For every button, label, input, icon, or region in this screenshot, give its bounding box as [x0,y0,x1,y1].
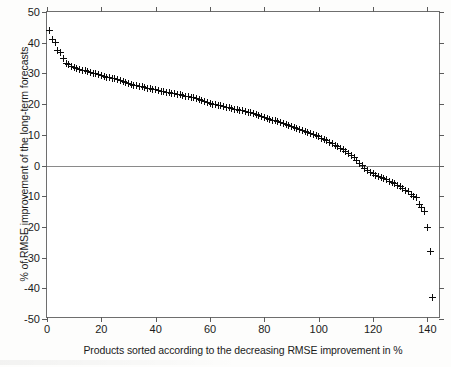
y-tick-label: 0 [34,160,40,172]
x-tick-top [373,7,374,12]
y-tick-right [439,227,444,228]
y-tick [42,135,47,136]
data-point [429,294,436,301]
data-point [421,208,428,215]
x-tick-label: 80 [258,323,270,335]
y-tick-right [439,43,444,44]
y-axis-label: % of RMSE improvement of the long-term f… [18,4,30,324]
y-tick-label: -10 [24,190,40,202]
x-tick-top [101,7,102,12]
x-tick-label: 60 [204,323,216,335]
x-tick-top [427,7,428,12]
y-tick-right [439,196,444,197]
y-tick-label: -50 [24,313,40,325]
plot-area: -50-40-30-20-1001020304050 0204060801001… [46,11,440,318]
x-tick [101,317,102,322]
figure-canvas: % of RMSE improvement of the long-term f… [0,0,451,367]
x-tick-label: 120 [364,323,382,335]
x-tick-top [47,7,48,12]
x-tick-label: 40 [150,323,162,335]
y-tick-right [439,319,444,320]
x-tick [319,317,320,322]
y-tick [42,288,47,289]
y-tick [42,166,47,167]
data-point [413,194,420,201]
x-tick [47,317,48,322]
y-tick-label: -40 [24,282,40,294]
y-tick-right [439,73,444,74]
y-tick-right [439,104,444,105]
y-tick [42,43,47,44]
zero-reference-line [47,166,441,167]
y-tick-label: 50 [28,6,40,18]
y-tick-label: 20 [28,98,40,110]
y-tick-right [439,135,444,136]
x-axis-label: Products sorted according to the decreas… [46,344,440,356]
x-tick [373,317,374,322]
y-tick-label: -30 [24,252,40,264]
x-tick-label: 0 [44,323,50,335]
x-tick [264,317,265,322]
x-tick-label: 140 [418,323,436,335]
x-tick [156,317,157,322]
x-tick-top [156,7,157,12]
y-tick-label: 10 [28,129,40,141]
x-tick-top [210,7,211,12]
y-tick-right [439,258,444,259]
y-tick-right [439,288,444,289]
data-point [46,27,53,34]
y-tick [42,258,47,259]
y-tick-right [439,12,444,13]
y-tick-label: -20 [24,221,40,233]
x-tick [210,317,211,322]
x-tick-label: 100 [310,323,328,335]
y-tick [42,104,47,105]
data-point [52,39,59,46]
data-point [424,224,431,231]
y-tick [42,12,47,13]
y-tick [42,73,47,74]
scan-artifact [0,360,240,365]
y-tick-label: 30 [28,67,40,79]
x-tick [427,317,428,322]
x-tick-top [319,7,320,12]
x-tick-top [264,7,265,12]
data-point [427,248,434,255]
y-tick-label: 40 [28,37,40,49]
y-tick [42,227,47,228]
y-tick-right [439,166,444,167]
x-tick-label: 20 [95,323,107,335]
y-tick [42,196,47,197]
